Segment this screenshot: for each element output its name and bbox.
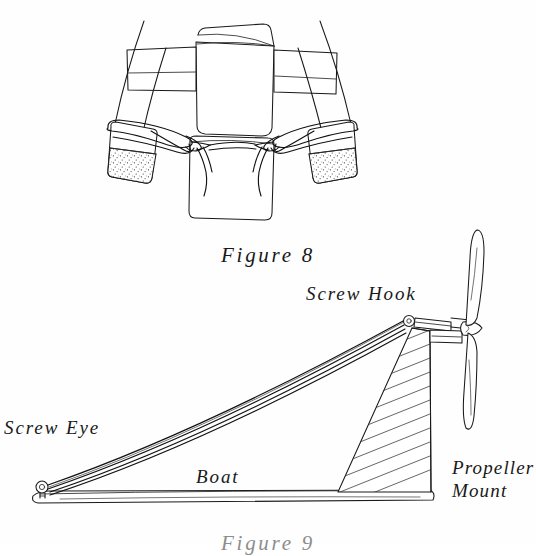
figure-9-artwork xyxy=(33,230,484,514)
screw-hook xyxy=(404,316,452,332)
figure-8-artwork xyxy=(107,21,358,220)
label-propeller-mount: Propeller Mount xyxy=(452,456,534,502)
label-boat: Boat xyxy=(196,466,240,487)
center-hull xyxy=(189,24,274,220)
cross-spar-left xyxy=(127,47,196,91)
label-screw-hook: Screw Hook xyxy=(306,283,417,304)
figure-9-caption: Figure 9 xyxy=(0,532,536,556)
propeller-blade-lower xyxy=(463,333,477,429)
figure-8-caption: Figure 8 xyxy=(0,244,536,268)
label-screw-eye: Screw Eye xyxy=(4,417,100,438)
